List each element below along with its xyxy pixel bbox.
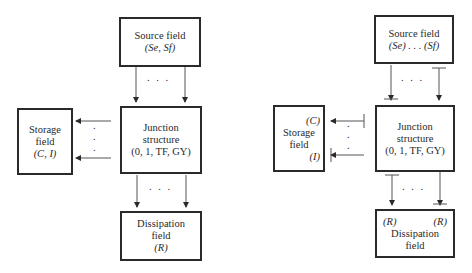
storage-field-box-right: (C) Storage field (I)	[273, 105, 325, 172]
junction-elements: (0, 1, TF, GY)	[131, 146, 191, 158]
dissipation-r-port-right: (R)	[434, 216, 447, 228]
junction-label-2-right: structure	[397, 133, 434, 145]
junction-elements-right: (0, 1, TF, GY)	[385, 145, 445, 157]
dissipation-field-box: Dissipation field (R)	[120, 211, 202, 261]
storage-label-1-right: Storage	[283, 127, 315, 139]
storage-field-box: Storage field (C, I)	[17, 108, 73, 175]
storage-i-port: (I)	[310, 151, 321, 163]
dot-v1: .	[93, 120, 96, 131]
dot-v2-right: .	[347, 129, 350, 140]
source-field-box-right: Source field (Se) . . . (Sf)	[374, 15, 454, 64]
dot-v3: .	[93, 142, 96, 153]
source-elements-right: (Se) . . . (Sf)	[389, 40, 439, 52]
dot-v2: .	[93, 131, 96, 142]
source-label-right: Source field	[388, 28, 439, 40]
dissipation-label-1: Dissipation	[137, 218, 185, 230]
source-elements: (Se, Sf)	[145, 42, 175, 54]
dissipation-r-port-left: (R)	[383, 216, 396, 228]
dissipation-field-box-right: (R) (R) Dissipation field	[375, 209, 455, 258]
storage-label-1: Storage	[29, 124, 61, 136]
dot-v1-right: .	[347, 118, 350, 129]
junction-label-1: Junction	[143, 122, 179, 134]
junction-structure-box: Junction structure (0, 1, TF, GY)	[120, 106, 202, 174]
junction-label-1-right: Junction	[397, 121, 433, 133]
dots-source-junction-right: . . .	[401, 72, 424, 83]
dissipation-label-2-right: field	[405, 240, 424, 252]
dot-v3-right: .	[347, 140, 350, 151]
junction-label-2: structure	[143, 134, 180, 146]
storage-label-2-right: field	[289, 139, 308, 151]
dots-source-junction: . . .	[147, 72, 170, 83]
dissipation-label-1-right: Dissipation	[391, 228, 439, 240]
storage-label-2: field	[35, 136, 54, 148]
storage-elements: (C, I)	[34, 148, 57, 160]
source-field-box: Source field (Se, Sf)	[119, 17, 201, 67]
source-label: Source field	[134, 30, 185, 42]
junction-structure-box-right: Junction structure (0, 1, TF, GY)	[375, 105, 455, 172]
dissipation-label-2: field	[151, 230, 170, 242]
dissipation-elements: (R)	[154, 242, 167, 254]
dots-junction-dissipation-right: . . .	[402, 181, 425, 192]
dots-junction-dissipation: . . .	[149, 181, 172, 192]
storage-c-port: (C)	[306, 115, 320, 127]
